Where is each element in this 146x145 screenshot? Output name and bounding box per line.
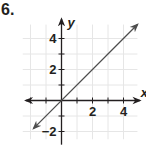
x-tick-label: 2: [89, 104, 96, 119]
x-tick-label: 4: [120, 104, 128, 119]
y-axis-label: y: [67, 15, 76, 30]
y-tick-label: −2: [42, 124, 57, 139]
y-tick-label: 2: [49, 62, 56, 77]
coordinate-plane: 2442−2yx: [0, 0, 146, 145]
x-axis-label: x: [140, 85, 146, 100]
y-tick-label: 4: [49, 31, 57, 46]
tick-labels: 2442−2yx: [42, 15, 146, 139]
